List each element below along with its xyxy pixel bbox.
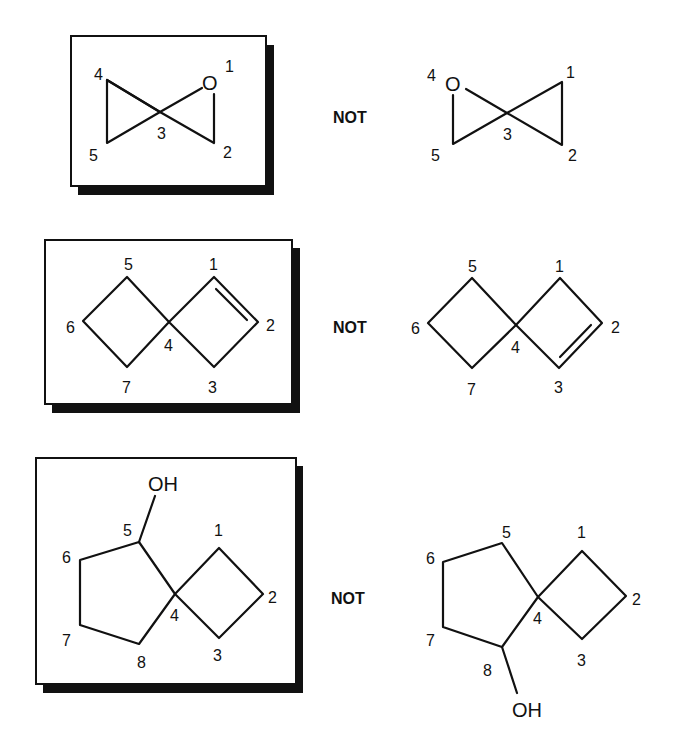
locant-2: 2 [223, 144, 232, 161]
locant-6: 6 [426, 550, 435, 567]
locant-5: 5 [468, 258, 477, 275]
locant-4: 4 [94, 66, 103, 83]
locant-5: 5 [124, 256, 133, 273]
locant-4: 4 [533, 610, 542, 627]
locant-6: 6 [66, 319, 75, 336]
locant-1: 1 [577, 524, 586, 541]
locant-1: 1 [566, 64, 575, 81]
locant-3: 3 [577, 652, 586, 669]
locant-2: 2 [266, 317, 275, 334]
locant-7: 7 [426, 632, 435, 649]
locant-3: 3 [157, 125, 166, 142]
locant-1: 1 [555, 258, 564, 275]
structure-row1-incorrect: O 1 2 3 4 5 [427, 64, 577, 164]
locant-1: 1 [209, 256, 218, 273]
locant-7: 7 [467, 381, 476, 398]
locant-8: 8 [483, 662, 492, 679]
locant-2: 2 [611, 319, 620, 336]
locant-4: 4 [170, 607, 179, 624]
locant-7: 7 [122, 379, 131, 396]
hydroxyl-group: OH [512, 699, 542, 721]
not-label-row2: NOT [333, 319, 367, 336]
not-label-row3: NOT [331, 590, 365, 607]
locant-4: 4 [164, 337, 173, 354]
structure-row3-correct: OH 5 6 7 8 4 1 2 3 [62, 473, 277, 671]
oxygen-atom: O [202, 72, 218, 94]
not-label-row1: NOT [333, 109, 367, 126]
locant-6: 6 [62, 549, 71, 566]
locant-3: 3 [554, 379, 563, 396]
structure-row3-incorrect: OH 5 6 7 8 4 1 2 3 [426, 524, 641, 721]
locant-3: 3 [213, 647, 222, 664]
locant-3: 3 [208, 379, 217, 396]
hydroxyl-group: OH [148, 473, 178, 495]
locant-7: 7 [62, 632, 71, 649]
locant-3: 3 [503, 126, 512, 143]
locant-2: 2 [568, 147, 577, 164]
locant-5: 5 [89, 147, 98, 164]
locant-5: 5 [502, 524, 511, 541]
locant-4: 4 [427, 67, 436, 84]
locant-4: 4 [511, 339, 520, 356]
locant-8: 8 [137, 654, 146, 671]
oxygen-atom: O [445, 73, 461, 95]
locant-5: 5 [431, 147, 440, 164]
structure-row1-correct: O 1 2 3 4 5 [89, 58, 234, 164]
locant-1: 1 [225, 58, 234, 75]
locant-5: 5 [123, 522, 132, 539]
locant-6: 6 [411, 320, 420, 337]
locant-2: 2 [268, 589, 277, 606]
structure-row2-correct: 5 6 7 4 1 2 3 [66, 256, 275, 396]
structure-row2-incorrect: 5 6 7 4 1 2 3 [411, 258, 620, 398]
locant-1: 1 [214, 522, 223, 539]
locant-2: 2 [632, 591, 641, 608]
